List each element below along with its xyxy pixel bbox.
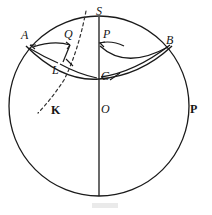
caption-remnant (92, 203, 118, 208)
angle-arc-c-to-b (101, 45, 170, 77)
tick-near-l (66, 59, 73, 66)
label-point-a: A (21, 29, 28, 41)
angle-arc-at-a (33, 43, 70, 47)
label-point-b: B (166, 34, 173, 46)
label-point-p-right: P (190, 103, 197, 115)
figure-root: S A Q P B L C K O P (0, 0, 212, 215)
label-point-l: L (52, 64, 59, 76)
arc-p-to-b (100, 46, 168, 58)
label-point-k: K (51, 104, 60, 116)
label-point-c: C (101, 70, 109, 82)
label-point-p-upper: P (103, 28, 110, 40)
label-point-q: Q (64, 28, 73, 40)
label-point-s: S (96, 5, 102, 17)
label-point-o: O (101, 103, 110, 115)
